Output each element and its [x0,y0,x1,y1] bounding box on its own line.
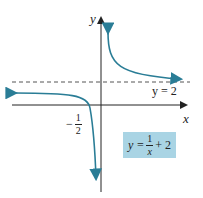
eq-lhs: y = [128,138,144,153]
graph-canvas [0,0,203,198]
eq-numerator: 1 [147,134,152,144]
minus-sign: − [66,117,73,132]
x-axis-label: x [183,112,189,125]
numerator: 1 [76,113,81,123]
eq-denominator: x [148,147,152,157]
curve-left-branch [15,93,96,178]
eq-fraction: 1 x [146,134,153,157]
x-intercept-label: − 1 2 [66,113,84,136]
y-axis-label: y [90,12,96,25]
asymptote-label: y = 2 [152,85,177,97]
eq-rhs: + 2 [155,138,171,153]
denominator: 2 [76,126,81,136]
equation-box: y = 1 x + 2 [123,132,176,158]
fraction: 1 2 [75,113,82,136]
curve-right-branch [108,32,180,79]
